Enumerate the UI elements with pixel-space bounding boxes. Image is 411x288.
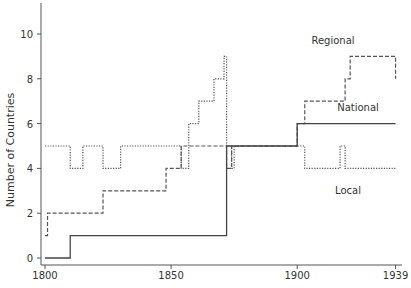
- regional-series-label: Regional: [311, 35, 354, 46]
- series-lines: [45, 56, 396, 258]
- y-tick-label: 0: [27, 253, 33, 264]
- step-line-chart: 02468101800185019001939 RegionalNational…: [0, 0, 411, 288]
- y-tick-label: 4: [27, 163, 33, 174]
- y-tick-label: 10: [20, 29, 33, 40]
- x-tick-label: 1900: [284, 270, 309, 281]
- x-tick-label: 1800: [32, 270, 57, 281]
- local-series-label: Local: [335, 185, 361, 196]
- x-tick-label: 1939: [383, 270, 408, 281]
- x-tick-label: 1850: [158, 270, 183, 281]
- series-labels: RegionalNationalLocal: [311, 35, 378, 196]
- y-axis-label: Number of Countries: [4, 92, 17, 207]
- y-tick-label: 2: [27, 208, 33, 219]
- national-series-label: National: [337, 102, 379, 113]
- y-tick-label: 8: [27, 74, 33, 85]
- y-tick-label: 6: [27, 119, 33, 130]
